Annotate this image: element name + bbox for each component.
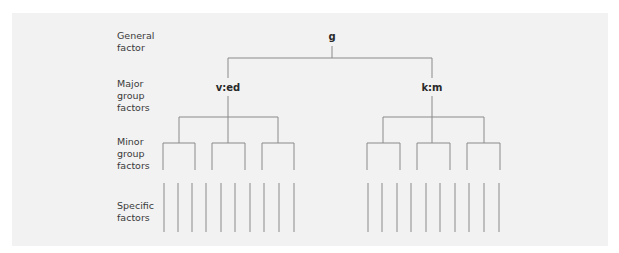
tree-lines [0,0,619,253]
